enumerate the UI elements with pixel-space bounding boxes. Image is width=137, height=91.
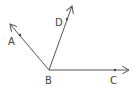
label-c: C: [110, 75, 117, 86]
point-c-dot: [114, 69, 116, 71]
label-d: D: [55, 17, 63, 28]
point-a-dot: [19, 34, 21, 36]
point-d-dot: [66, 18, 68, 20]
angle-diagram: A D C B: [0, 0, 137, 91]
label-b: B: [45, 75, 52, 86]
ray-ba: A: [8, 24, 49, 70]
ray-bc: C: [49, 69, 129, 86]
ray-bd: D: [49, 6, 72, 70]
label-a: A: [8, 36, 15, 47]
